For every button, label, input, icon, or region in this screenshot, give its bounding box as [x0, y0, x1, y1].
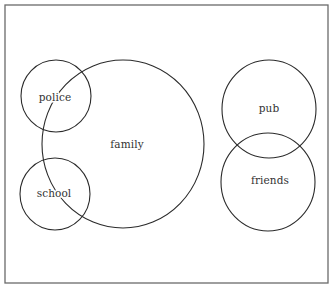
police-label: police	[39, 91, 71, 103]
diagram-frame	[5, 5, 328, 283]
pub-label: pub	[259, 102, 280, 114]
school-label: school	[37, 187, 72, 199]
social-network-diagram: family police school pub friends	[0, 0, 333, 288]
family-label: family	[110, 138, 143, 150]
friends-label: friends	[251, 174, 289, 186]
